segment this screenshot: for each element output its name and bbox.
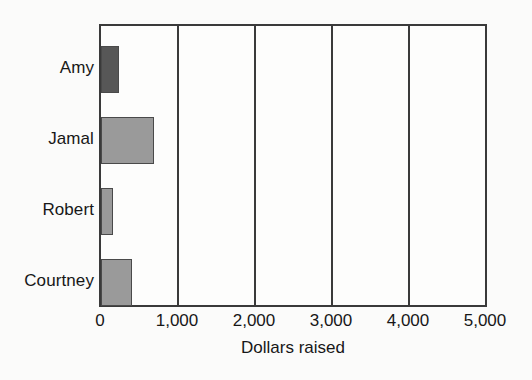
x-axis-labels: 0 1,000 2,000 3,000 4,000 5,000 — [0, 311, 532, 335]
bar-jamal — [101, 117, 154, 164]
gridline-3000 — [331, 26, 333, 305]
y-tick-label-amy: Amy — [2, 59, 94, 76]
x-axis-title: Dollars raised — [99, 338, 487, 358]
gridline-1000 — [177, 26, 179, 305]
y-tick-label-jamal: Jamal — [2, 130, 94, 147]
bar-chart: Amy Jamal Robert Courtney 0 1,000 2,000 … — [0, 0, 532, 380]
bar-courtney — [101, 259, 132, 306]
x-tick-label-0: 0 — [95, 311, 104, 331]
y-tick-label-courtney: Courtney — [2, 272, 94, 289]
gridline-2000 — [254, 26, 256, 305]
bar-amy — [101, 46, 119, 93]
x-tick-label-1000: 1,000 — [156, 311, 199, 331]
y-axis-labels: Amy Jamal Robert Courtney — [0, 24, 94, 307]
x-tick-label-2000: 2,000 — [233, 311, 276, 331]
gridline-4000 — [408, 26, 410, 305]
y-tick-label-robert: Robert — [2, 201, 94, 218]
plot-area — [99, 24, 487, 307]
x-tick-label-5000: 5,000 — [464, 311, 507, 331]
x-tick-label-3000: 3,000 — [310, 311, 353, 331]
x-tick-label-4000: 4,000 — [387, 311, 430, 331]
bar-robert — [101, 188, 113, 235]
